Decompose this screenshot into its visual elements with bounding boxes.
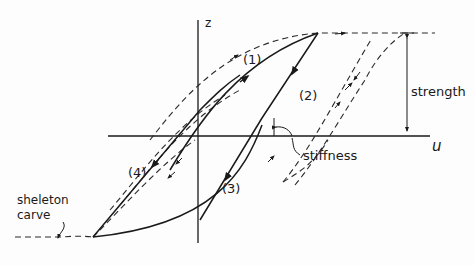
hysteresis-diagram: z u (1) (2) (3) (4) strength stiffness s… [0, 0, 475, 265]
skeleton-label-line1: sheleton [17, 193, 69, 207]
strength-label: strength [411, 84, 466, 99]
stiffness-label: stiffness [303, 148, 357, 163]
z-axis-label: z [205, 16, 211, 30]
branch-label-3: (3) [222, 181, 240, 196]
skeleton-curve-upper [150, 33, 435, 140]
branch-label-2: (2) [299, 88, 317, 103]
stiffness-arc [276, 127, 292, 136]
dashed-loop-b [110, 95, 225, 210]
stiffness-leader [292, 138, 300, 155]
skeleton-label-line2: carve [17, 208, 50, 222]
branch-label-1: (1) [243, 52, 261, 67]
skeleton-leader [58, 222, 64, 238]
branch-label-4: (4) [128, 165, 146, 180]
skeleton-curve-lower [15, 236, 93, 237]
u-axis-label: u [432, 137, 442, 155]
